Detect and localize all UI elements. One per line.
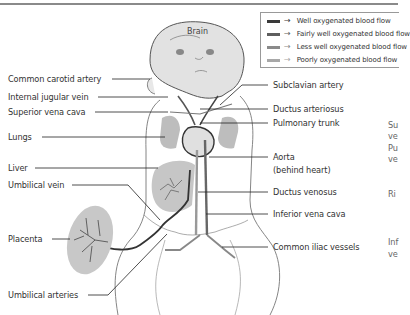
- label-cutoff: Pu: [388, 143, 398, 153]
- label-ductus-venosus: Ductus venosus: [273, 187, 337, 197]
- legend-item: → Poorly oxygenated blood flow: [267, 54, 397, 66]
- label-umbilical-vein: Umbilical vein: [8, 180, 64, 190]
- label-cutoff: Su: [388, 120, 398, 130]
- legend-swatch: [267, 59, 280, 62]
- arrow-right-icon: →: [284, 17, 291, 25]
- label-cutoff: ve: [388, 131, 398, 141]
- label-internal-jugular-vein: Internal jugular vein: [8, 92, 89, 102]
- label-aorta-note: (behind heart): [273, 165, 331, 175]
- legend-label: Less well oxygenated blood flow: [297, 43, 407, 51]
- legend-item: → Well oxygenated blood flow: [267, 15, 391, 27]
- label-superior-vena-cava: Superior vena cava: [8, 107, 86, 117]
- label-ductus-arteriosus: Ductus arteriosus: [273, 104, 344, 114]
- arrow-right-icon: →: [284, 56, 291, 64]
- label-cutoff: ve: [388, 249, 398, 259]
- label-common-iliac-vessels: Common iliac vessels: [273, 242, 359, 252]
- label-umbilical-arteries: Umbilical arteries: [8, 290, 78, 300]
- label-cutoff: Ri: [388, 189, 396, 199]
- label-liver: Liver: [8, 163, 28, 173]
- legend-label: Well oxygenated blood flow: [297, 17, 391, 25]
- legend-label: Poorly oxygenated blood flow: [297, 56, 398, 64]
- label-inferior-vena-cava: Inferior vena cava: [273, 209, 345, 219]
- legend-swatch: [267, 33, 280, 36]
- legend-item: → Fairly well oxygenated blood flow: [267, 28, 410, 40]
- legend-swatch: [267, 46, 280, 49]
- legend-swatch: [267, 20, 280, 23]
- label-common-carotid-artery: Common carotid artery: [8, 74, 101, 84]
- arrow-right-icon: →: [284, 30, 291, 38]
- legend-label: Fairly well oxygenated blood flow: [297, 30, 410, 38]
- label-pulmonary-trunk: Pulmonary trunk: [273, 118, 339, 128]
- label-lungs: Lungs: [8, 132, 32, 142]
- label-aorta: Aorta: [273, 152, 295, 162]
- label-placenta: Placenta: [8, 234, 42, 244]
- label-subclavian-artery: Subclavian artery: [273, 80, 343, 90]
- label-cutoff: ve: [388, 154, 398, 164]
- label-cutoff: Inf: [388, 237, 398, 247]
- label-brain: Brain: [187, 27, 208, 36]
- arrow-right-icon: →: [284, 43, 291, 51]
- legend-item: → Less well oxygenated blood flow: [267, 41, 407, 53]
- legend: → Well oxygenated blood flow → Fairly we…: [260, 12, 399, 68]
